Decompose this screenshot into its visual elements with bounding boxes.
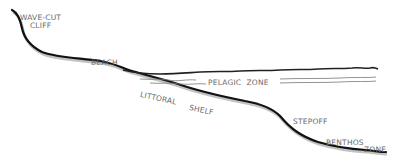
beach-label: BEACH <box>91 59 118 67</box>
zone-label: ZONE <box>364 146 386 154</box>
shoreline-shading <box>13 12 387 154</box>
coastal-profile-diagram: WAVE-CUT CLIFF BEACH PELAGIC ZONE LITTOR… <box>0 0 394 165</box>
benthos-label: BENTHOS <box>326 139 364 147</box>
water-surface-line <box>123 68 378 74</box>
pelagic-wave-line-3 <box>280 77 376 79</box>
stepoff-label: STEPOFF <box>293 118 328 126</box>
pelagic-zone-label: PELAGIC ZONE <box>208 79 269 87</box>
wave-cut-cliff-label: WAVE-CUT CLIFF <box>20 14 61 30</box>
pelagic-wave-line-4 <box>280 81 376 83</box>
wave-cut-cliff-label-line2: CLIFF <box>20 22 61 30</box>
shoreline-profile-line <box>12 10 386 152</box>
